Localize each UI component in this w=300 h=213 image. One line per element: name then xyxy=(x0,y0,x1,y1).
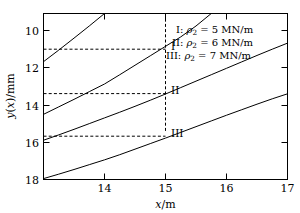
curve-tag-III: III xyxy=(171,127,183,139)
y-axis-title: y(x)/mm xyxy=(4,73,17,120)
curve-tag-II: II xyxy=(171,84,179,96)
chart-page: 14 15 16 17 10 12 14 16 18 x/m y(x)/mm xyxy=(0,0,300,213)
x-axis-title: x/m xyxy=(155,198,176,211)
legend-entry-I: I: ρ2 = 5 MN/m xyxy=(176,24,254,37)
y-tick-label-12: 12 xyxy=(25,62,39,75)
x-tick-label-14: 14 xyxy=(98,182,112,195)
y-tick-label-10: 10 xyxy=(25,25,39,38)
legend-entry-III: III: ρ2 = 7 MN/m xyxy=(166,50,252,63)
x-tick-label-17: 17 xyxy=(281,182,295,195)
y-tick-label-18: 18 xyxy=(25,174,39,187)
line-chart-figure: 14 15 16 17 10 12 14 16 18 x/m y(x)/mm xyxy=(0,0,300,213)
legend: I: ρ2 = 5 MN/m II: ρ2 = 6 MN/m III: ρ2 =… xyxy=(166,24,254,63)
x-tick-label-15: 15 xyxy=(159,182,173,195)
curve-series-unlabeled-lower xyxy=(44,14,105,62)
x-tick-label-16: 16 xyxy=(220,182,234,195)
y-tick-label-16: 16 xyxy=(25,137,39,150)
y-tick-label-14: 14 xyxy=(25,100,39,113)
legend-entry-II: II: ρ2 = 6 MN/m xyxy=(172,37,254,50)
